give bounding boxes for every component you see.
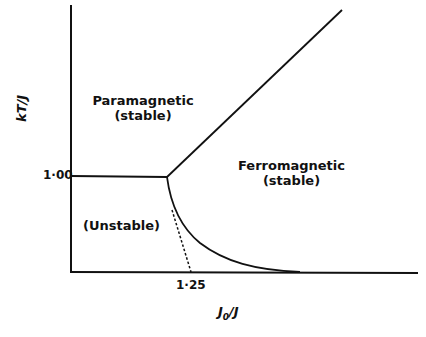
x-axis (70, 272, 418, 273)
ferromagnetic-label: Ferromagnetic (234, 158, 349, 173)
ferromagnetic-sublabel: (stable) (234, 173, 349, 188)
y-axis-label: kT/J (14, 82, 29, 122)
horizontal-boundary (71, 176, 167, 177)
region-ferromagnetic: Ferromagnetic (stable) (234, 158, 349, 188)
x-axis-label: J0/J (218, 304, 239, 322)
region-paramagnetic: Paramagnetic (stable) (88, 93, 198, 123)
x-tick-label: 1·25 (176, 278, 206, 292)
x-axis-label-rest: /J (229, 304, 239, 319)
paramagnetic-label: Paramagnetic (88, 93, 198, 108)
dashed-boundary (172, 210, 191, 272)
paramagnetic-sublabel: (stable) (88, 108, 198, 123)
region-unstable-label: (Unstable) (83, 218, 160, 233)
y-axis-label-text: kT/J (14, 95, 29, 122)
y-tick-label: 1·00 (43, 168, 73, 182)
